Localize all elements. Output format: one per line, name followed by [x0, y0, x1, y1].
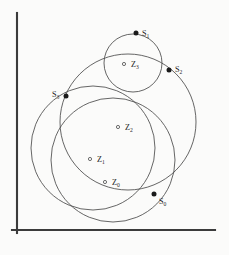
circle-z2 [60, 54, 196, 190]
diagram-canvas: Z0Z1Z2Z3S0S1S2S3 [0, 0, 229, 255]
center-label-z1: Z1 [97, 155, 105, 165]
center-marker-z3 [122, 62, 125, 65]
point-label-s0: S0 [159, 197, 167, 207]
center-label-z0: Z0 [112, 178, 120, 188]
center-label-z3: Z3 [131, 60, 139, 70]
axes-group [12, 13, 215, 233]
circle-diagram-figure: Z0Z1Z2Z3S0S1S2S3 [0, 0, 229, 255]
boundary-dots-group [64, 31, 172, 197]
center-marker-z2 [116, 125, 119, 128]
center-label-z2: Z2 [125, 123, 133, 133]
boundary-dot-s0 [152, 192, 157, 197]
center-marker-z1 [88, 157, 91, 160]
circles-group [31, 34, 196, 222]
circle-z0 [51, 98, 175, 222]
point-label-s2: S2 [175, 65, 183, 75]
boundary-dot-s1 [134, 31, 139, 36]
point-label-s1: S1 [142, 29, 150, 39]
boundary-dot-s2 [167, 68, 172, 73]
center-markers-group [88, 62, 125, 183]
center-marker-z0 [103, 180, 106, 183]
boundary-dot-s3 [64, 94, 69, 99]
point-label-s3: S3 [52, 90, 60, 100]
circle-z1 [31, 86, 155, 210]
